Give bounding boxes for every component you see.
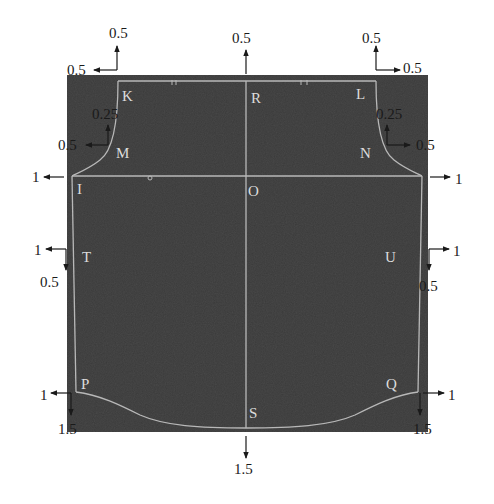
grade-m-up: 0.25: [92, 106, 118, 122]
grade-q-down: 1.5: [413, 421, 432, 437]
grade-u-right: 1: [453, 243, 461, 259]
point-label-s: S: [249, 405, 257, 421]
grade-r-up: 0.5: [232, 30, 251, 46]
point-label-q: Q: [386, 376, 397, 392]
point-label-n: N: [360, 145, 371, 161]
grade-q-right: 1: [448, 387, 456, 403]
point-label-r: R: [251, 90, 261, 106]
point-label-t: T: [82, 249, 91, 265]
grade-i-right: 1: [455, 171, 463, 187]
point-label-k: K: [122, 88, 133, 104]
point-label-p: P: [81, 376, 89, 392]
grade-t-left: 1: [34, 242, 42, 258]
pattern-diagram: K R L M N I O T U P S Q: [0, 0, 494, 504]
grade-p-left: 1: [40, 387, 48, 403]
grade-k-up: 0.5: [109, 25, 128, 41]
point-label-l: L: [356, 86, 365, 102]
panel-background: [67, 75, 428, 432]
grade-n-right: 0.5: [416, 137, 435, 153]
grade-l-right: 0.5: [403, 60, 422, 76]
grade-t-down: 0.5: [40, 274, 59, 290]
grade-p-down: 1.5: [58, 421, 77, 437]
point-label-i: I: [77, 181, 82, 197]
point-label-o: O: [248, 183, 259, 199]
grade-m-left: 0.5: [58, 137, 77, 153]
grade-u-down: 0.5: [419, 278, 438, 294]
grade-l-up: 0.5: [362, 30, 381, 46]
grade-i-left: 1: [32, 169, 40, 185]
point-label-m: M: [116, 145, 129, 161]
grade-k-left: 0.5: [67, 62, 86, 78]
grade-n-up: 0.25: [376, 106, 402, 122]
grade-s-down: 1.5: [234, 461, 253, 477]
point-label-u: U: [385, 249, 396, 265]
